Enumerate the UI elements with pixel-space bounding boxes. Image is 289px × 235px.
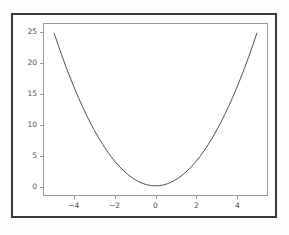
y-tick-label: 15	[13, 90, 37, 98]
plot-axes-area	[43, 23, 268, 196]
figure-frame: 0510152025 −4−2024	[11, 13, 277, 218]
parabola-curve-svg	[44, 24, 267, 195]
y-tick-label: 0	[13, 183, 37, 191]
x-tick-label: −4	[68, 202, 79, 210]
x-tick-mark	[196, 196, 197, 199]
x-tick-mark	[237, 196, 238, 199]
x-tick-mark	[156, 196, 157, 199]
y-tick-label: 25	[13, 29, 37, 37]
y-tick-label: 10	[13, 121, 37, 129]
x-tick-label: 0	[153, 202, 158, 210]
series-line-parabola	[54, 33, 257, 186]
x-tick-label: 4	[235, 202, 240, 210]
y-tick-label: 20	[13, 59, 37, 67]
x-tick-mark	[74, 196, 75, 199]
x-tick-label: 2	[194, 202, 199, 210]
y-tick-label: 5	[13, 152, 37, 160]
x-tick-mark	[115, 196, 116, 199]
figure-canvas: 0510152025 −4−2024	[13, 15, 275, 216]
figure-root: 0510152025 −4−2024	[0, 0, 289, 235]
x-tick-label: −2	[109, 202, 120, 210]
